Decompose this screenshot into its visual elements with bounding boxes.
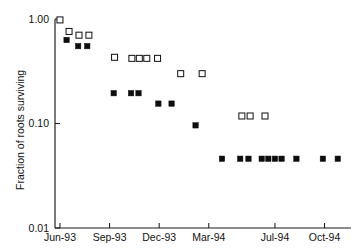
data-point-filled-squares-6 (156, 101, 161, 106)
y-tick-label-0: 1.00 (29, 13, 50, 25)
data-point-filled-squares-2 (85, 43, 90, 48)
data-point-filled-squares-7 (169, 101, 174, 106)
data-point-filled-squares-10 (238, 156, 243, 161)
data-point-filled-squares-9 (219, 156, 224, 161)
data-point-filled-squares-1 (75, 43, 80, 48)
x-tick-label-3: Mar-94 (192, 231, 225, 243)
data-point-filled-squares-0 (64, 37, 69, 42)
data-point-open-squares-2 (76, 32, 82, 38)
data-point-filled-squares-4 (128, 90, 133, 95)
data-point-filled-squares-14 (272, 156, 277, 161)
data-point-filled-squares-3 (111, 90, 116, 95)
y-axis-label: Fraction of roots surviving (14, 70, 26, 190)
data-point-filled-squares-11 (246, 156, 251, 161)
data-point-filled-squares-5 (136, 90, 141, 95)
data-point-filled-squares-8 (193, 123, 198, 128)
x-tick-label-2: Dec-93 (142, 231, 176, 243)
data-point-open-squares-9 (178, 71, 184, 77)
x-tick-label-5: Oct-94 (309, 231, 341, 243)
data-point-open-squares-12 (247, 113, 253, 119)
data-point-open-squares-13 (262, 113, 268, 119)
data-point-open-squares-5 (129, 55, 135, 61)
data-point-open-squares-7 (144, 55, 150, 61)
x-tick-label-4: Jul-94 (261, 231, 290, 243)
data-point-open-squares-0 (57, 17, 63, 23)
data-point-filled-squares-13 (266, 156, 271, 161)
data-point-filled-squares-18 (335, 156, 340, 161)
data-point-filled-squares-12 (259, 156, 264, 161)
data-point-open-squares-4 (112, 54, 118, 60)
plot-background (0, 0, 360, 248)
data-point-open-squares-6 (136, 55, 142, 61)
data-point-open-squares-1 (66, 28, 72, 34)
data-point-open-squares-11 (239, 113, 245, 119)
data-point-open-squares-8 (155, 55, 161, 61)
chart-figure: Fraction of roots surviving 1.000.100.01… (0, 0, 360, 248)
y-tick-label-1: 0.10 (29, 117, 50, 129)
data-point-open-squares-10 (199, 71, 205, 77)
x-tick-label-1: Sep-93 (93, 231, 127, 243)
scatter-plot-svg: Fraction of roots surviving 1.000.100.01… (0, 0, 360, 248)
data-point-filled-squares-15 (279, 156, 284, 161)
data-point-filled-squares-17 (320, 156, 325, 161)
data-point-open-squares-3 (86, 32, 92, 38)
data-point-filled-squares-16 (294, 156, 299, 161)
x-tick-label-0: Jun-93 (44, 231, 76, 243)
